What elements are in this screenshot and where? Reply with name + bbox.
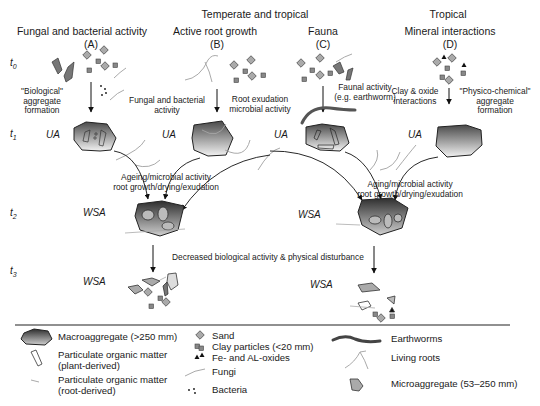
legend-clay: Clay particles (<20 mm) [212,341,314,352]
column-a-title: Fungal and bacterial activity [17,25,147,37]
sand-icon [196,331,204,339]
living-roots [116,140,416,170]
fungi-icon [185,369,205,376]
wsa-label-t2-right: WSA [298,209,321,221]
wsa-label-t2-left: WSA [83,207,106,219]
legend-sand: Sand [212,330,234,341]
legend-fungi: Fungi [212,366,236,377]
t3-right-fragments [350,283,395,322]
column-a-letter: (A) [84,38,98,50]
macroaggregate-icon [21,329,52,345]
fungal-bacterial-label: Fungal and bacterial activity [129,96,205,115]
legend-macroaggregate: Macroaggregate (>250 mm) [58,331,177,342]
ua-label-a: UA [46,129,60,141]
pom-root-icon [31,380,39,382]
column-d-letter: (D) [443,38,458,50]
wsa-label-t3-left: WSA [83,276,106,288]
earthworm-shape [302,108,355,123]
ageing-left-label: Ageing/microbial activity root growth/dr… [113,173,219,192]
t3-left-fragments [128,273,178,309]
legend-bacteria: Bacteria [212,384,247,395]
ageing-right-label: Aging/microbial activity root growth/dry… [357,180,463,199]
column-d-title: Mineral interactions [404,25,495,37]
living-root-icon [345,351,368,369]
ua-label-d: UA [408,129,422,141]
t0-column-b-particles [185,56,266,83]
aggregate-formation-diagram: Temperate and tropical Tropical Fungal a… [0,0,540,406]
legend-oxides: Fe- and AL-oxides [212,352,290,363]
t2-aggregates [125,198,408,236]
bacteria-icon [188,389,190,391]
legend-microaggregate: Microaggregate (53–250 mm) [391,378,517,389]
time-label-t0: t0 [10,57,17,71]
legend-earthworms: Earthworms [391,333,442,344]
faunal-activity-label: Faunal activity (e.g. earthworm) [334,83,395,102]
ua-label-b: UA [162,129,176,141]
t0-column-d-particles [433,54,467,84]
pom-plant-icon [31,350,42,366]
physico-chemical-label: "Physico-chemical" aggregate formation [459,87,530,116]
earthworm-icon [333,337,380,342]
ua-label-c: UA [274,129,288,141]
t0-column-c-particles [297,54,353,82]
time-label-t3: t3 [10,265,17,279]
oxides-icon [195,355,200,360]
root-exudation-label: Root exudation microbial activity [229,95,290,114]
region-temperate: Temperate and tropical [202,8,309,20]
legend-living-roots: Living roots [391,352,440,363]
microaggregate-icon [350,379,363,391]
biological-formation-label: "Biological" aggregate formation [21,87,63,116]
time-label-t2: t2 [10,207,17,221]
wsa-label-t3-right: WSA [310,279,333,291]
region-tropical: Tropical [430,8,467,20]
decreased-activity-label: Decreased biological activity & physical… [172,253,364,263]
legend-pom-plant: Particulate organic matter(plant-derived… [58,349,167,371]
column-c-title: Fauna [308,25,338,37]
clay-oxide-label: Clay & oxide interactions [391,87,438,106]
column-c-letter: (C) [316,38,331,50]
legend-pom-root: Particulate organic matter(root-derived) [58,374,167,396]
time-label-t1: t1 [10,128,17,142]
column-b-title: Active root growth [173,25,257,37]
column-b-letter: (B) [210,38,224,50]
